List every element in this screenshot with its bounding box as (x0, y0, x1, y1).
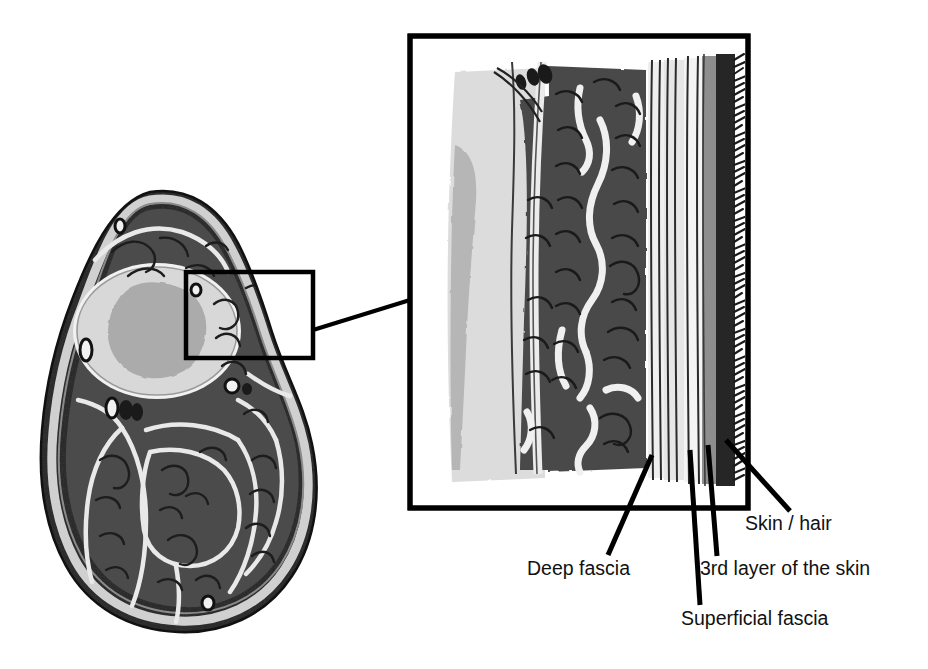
label-skin-hair: Skin / hair (745, 514, 832, 534)
inset-skin-band (716, 54, 735, 486)
label-third-layer-of-the-skin: 3rd layer of the skin (700, 559, 870, 579)
label-deep-fascia: Deep fascia (527, 559, 630, 579)
limb-cross-section (30, 180, 330, 645)
figure-root: Skin / hair Deep fascia 3rd layer of the… (0, 0, 928, 669)
label-superficial-fascia: Superficial fascia (681, 609, 828, 629)
bone-marrow (108, 282, 206, 378)
bone (73, 263, 241, 399)
roi-to-inset-connector (313, 300, 410, 330)
magnified-inset (410, 36, 748, 508)
